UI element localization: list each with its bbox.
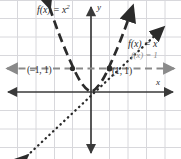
point-label-minus-one-one: (–1, 1): [27, 66, 52, 76]
point-marker-minus-one-one: [70, 66, 75, 71]
identity-function-label: f(x) = x: [128, 39, 157, 49]
coordinate-axes: [8, 7, 173, 153]
point-label-one-one: (1, 1): [112, 67, 132, 77]
parabola-function-label: f(x) = x2: [37, 4, 70, 15]
graph-canvas: [0, 0, 181, 159]
x-axis-label: x: [156, 78, 160, 87]
constant-function-label: f(x) = 1: [131, 51, 158, 60]
y-axis-label: y: [97, 3, 101, 12]
function-graph-figure: f(x) = x2 f(x) = x f(x) = 1 (–1, 1) (1, …: [0, 0, 181, 159]
